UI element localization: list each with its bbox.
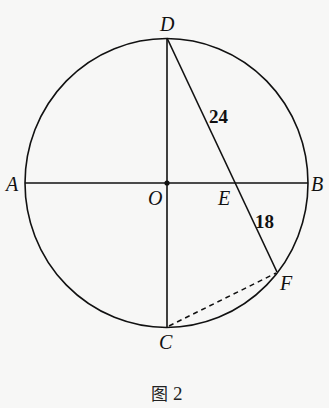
length-de: 24 (209, 106, 229, 127)
label-b: B (311, 173, 323, 195)
figure-caption-number: 2 (173, 383, 183, 404)
center-point-o (164, 180, 169, 185)
geometry-diagram: D A B O E F C 24 18 图 2 (0, 0, 329, 408)
figure-caption-prefix: 图 (151, 384, 168, 404)
label-a: A (4, 173, 19, 195)
label-e: E (217, 187, 230, 209)
label-c: C (159, 331, 173, 353)
segment-df (167, 38, 277, 272)
label-f: F (279, 272, 293, 294)
label-o: O (148, 187, 162, 209)
length-ef: 18 (255, 211, 274, 232)
segment-cf-dashed (169, 273, 276, 326)
label-d: D (159, 13, 175, 35)
